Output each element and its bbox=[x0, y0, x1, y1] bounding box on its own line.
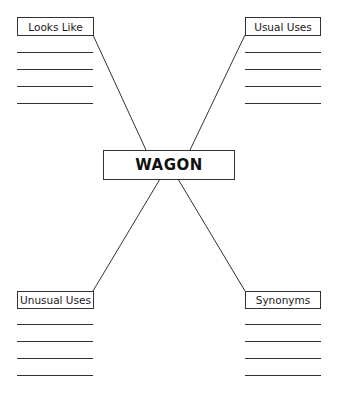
blank-line[interactable] bbox=[245, 86, 321, 87]
blank-line[interactable] bbox=[245, 324, 321, 325]
connector-top-left bbox=[93, 35, 146, 150]
blank-line[interactable] bbox=[17, 358, 93, 359]
connector-top-right bbox=[190, 35, 245, 150]
blank-line[interactable] bbox=[17, 375, 93, 376]
connector-lines bbox=[0, 0, 343, 396]
label-usual-uses: Usual Uses bbox=[245, 17, 321, 36]
blank-line[interactable] bbox=[245, 69, 321, 70]
word-map-diagram: Looks Like Usual Uses WAGON Unusual Uses… bbox=[0, 0, 343, 396]
blank-line[interactable] bbox=[17, 341, 93, 342]
blank-line[interactable] bbox=[245, 52, 321, 53]
label-synonyms: Synonyms bbox=[245, 291, 321, 309]
center-word: WAGON bbox=[103, 150, 235, 180]
blank-line[interactable] bbox=[245, 375, 321, 376]
connector-bottom-left bbox=[93, 179, 160, 291]
label-unusual-uses: Unusual Uses bbox=[17, 291, 94, 309]
label-looks-like: Looks Like bbox=[17, 17, 94, 36]
blank-line[interactable] bbox=[245, 103, 321, 104]
blank-line[interactable] bbox=[245, 358, 321, 359]
blank-line[interactable] bbox=[17, 103, 93, 104]
blank-line[interactable] bbox=[17, 69, 93, 70]
blank-line[interactable] bbox=[17, 324, 93, 325]
blank-line[interactable] bbox=[17, 86, 93, 87]
blank-line[interactable] bbox=[17, 52, 93, 53]
blank-line[interactable] bbox=[245, 341, 321, 342]
connector-bottom-right bbox=[178, 179, 245, 291]
